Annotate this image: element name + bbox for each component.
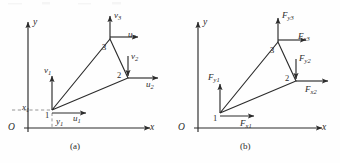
caption-a: (a) xyxy=(70,141,80,151)
label-Fy1: Fy1 xyxy=(208,73,220,82)
label-Fy3: Fy3 xyxy=(282,11,294,20)
caption-b: (b) xyxy=(240,141,251,151)
panel-a-displacements: O x y 1 2 3 v1 u1 v2 u2 v3 u3 x1 y1 (a) xyxy=(0,0,170,163)
label-Fx1: Fx1 xyxy=(240,119,252,128)
panel-b-forces: O x y 1 2 3 Fy1 Fx1 Fy2 Fx2 Fy3 Fx3 (b) xyxy=(170,0,340,163)
node-number-1-b: 1 xyxy=(213,113,217,123)
node-number-1-a: 1 xyxy=(45,110,49,120)
label-Fx3: Fx3 xyxy=(298,32,310,41)
label-Fx2: Fx2 xyxy=(305,85,317,94)
figure-root: O x y 1 2 3 v1 u1 v2 u2 v3 u3 x1 y1 (a) xyxy=(0,0,340,163)
label-u3: u3 xyxy=(128,30,136,39)
label-v3: v3 xyxy=(114,11,121,20)
node-number-2-b: 2 xyxy=(285,73,289,83)
panel-a-drawing xyxy=(0,0,170,163)
y-axis-label-b: y xyxy=(203,17,207,27)
node-number-3-a: 3 xyxy=(102,42,106,52)
x-axis-label-b: x xyxy=(322,122,326,132)
node-number-3-b: 3 xyxy=(270,45,274,55)
label-v2: v2 xyxy=(131,52,138,61)
panel-b-drawing xyxy=(170,0,340,163)
origin-label-a: O xyxy=(8,122,15,132)
label-x1: x1 xyxy=(22,103,29,112)
label-Fy2: Fy2 xyxy=(299,54,311,63)
x-axis-label-a: x xyxy=(150,122,154,132)
label-v1: v1 xyxy=(44,66,51,75)
label-u2: u2 xyxy=(146,80,154,89)
label-y1: y1 xyxy=(56,117,63,126)
label-u1: u1 xyxy=(73,114,81,123)
origin-label-b: O xyxy=(178,122,185,132)
y-axis-label-a: y xyxy=(33,17,37,27)
node-number-2-a: 2 xyxy=(117,70,121,80)
